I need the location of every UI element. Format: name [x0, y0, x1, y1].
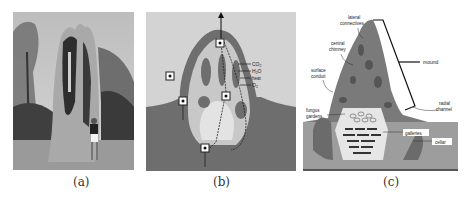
label-cellar: cellar [435, 140, 446, 145]
svg-text:H2O: H2O [252, 68, 262, 75]
label-central-chimney: centralchimney [329, 41, 347, 52]
caption-c: (c) [383, 175, 399, 189]
ventilation-schematic: CO2 H2O heat O2 [146, 12, 296, 171]
caption-b: (b) [213, 175, 230, 189]
panel-a-photo [13, 12, 134, 170]
label-surface-conduit: surfaceconduit [311, 68, 326, 79]
panel-b-schematic: CO2 H2O heat O2 [146, 12, 296, 171]
label-lateral-connectives: lateralconnectives [340, 15, 365, 26]
label-galleries: galleries [405, 131, 423, 136]
mound-cutaway: mound lateralconnectives centralchimney … [303, 10, 463, 172]
label-co2: CO [252, 61, 260, 67]
label-radial-channel: radialchannel [436, 101, 452, 112]
label-mound: mound [423, 59, 439, 65]
termite-mound-photo [13, 12, 134, 170]
caption-a: (a) [73, 175, 90, 189]
label-fungus-gardens: fungusgardens [306, 108, 323, 119]
panel-c-cutaway: mound lateralconnectives centralchimney … [303, 10, 463, 172]
label-heat: heat [252, 76, 262, 81]
